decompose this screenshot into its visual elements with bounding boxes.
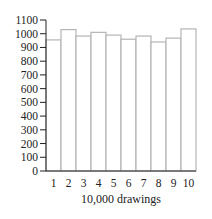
x-tick-label: 6 <box>126 177 132 189</box>
y-tick-label: 900 <box>21 41 39 53</box>
y-tick-label: 200 <box>21 138 39 150</box>
x-tick-label: 1 <box>51 177 57 189</box>
bar-1 <box>46 40 61 171</box>
y-tick-label: 1000 <box>15 28 38 40</box>
x-tick-label: 5 <box>111 177 117 189</box>
bars <box>46 29 196 171</box>
bar-chart: 010020030040050060070080090010001100 123… <box>0 0 212 219</box>
bar-7 <box>136 36 151 171</box>
y-tick-label: 500 <box>21 96 39 108</box>
bar-10 <box>181 29 196 171</box>
y-tick-label: 0 <box>32 165 38 177</box>
x-tick-label: 8 <box>156 177 162 189</box>
x-tick-label: 9 <box>171 177 177 189</box>
y-tick-label: 400 <box>21 110 39 122</box>
bar-3 <box>76 36 91 171</box>
x-axis-title: 10,000 drawings <box>81 192 161 206</box>
y-tick-label: 100 <box>21 151 39 163</box>
y-tick-label: 1100 <box>15 14 38 26</box>
x-tick-label: 10 <box>183 177 195 189</box>
bar-5 <box>106 35 121 171</box>
y-axis: 010020030040050060070080090010001100 <box>15 14 46 177</box>
x-tick-label: 3 <box>81 177 87 189</box>
bar-4 <box>91 32 106 171</box>
x-axis: 12345678910 <box>46 171 196 189</box>
bar-6 <box>121 39 136 171</box>
x-tick-label: 7 <box>141 177 147 189</box>
bar-2 <box>61 30 76 171</box>
bar-9 <box>166 38 181 171</box>
bar-8 <box>151 42 166 171</box>
x-tick-label: 2 <box>66 177 72 189</box>
y-tick-label: 800 <box>21 55 39 67</box>
y-tick-label: 600 <box>21 83 39 95</box>
x-tick-label: 4 <box>96 177 102 189</box>
y-tick-label: 700 <box>21 69 39 81</box>
y-tick-label: 300 <box>21 124 39 136</box>
